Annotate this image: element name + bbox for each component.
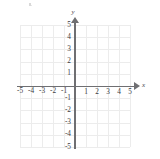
y-tick-label: 4 (59, 33, 71, 41)
y-tick-label: -1 (59, 94, 71, 102)
y-tick-label: 1 (59, 69, 71, 77)
scan-artifact-speck-2 (31, 5, 32, 6)
y-tick-label: 2 (59, 57, 71, 65)
coordinate-plane-figure: x y -5-4-3-2-11234554321-1-2-3-4-5 (0, 0, 160, 159)
y-axis-arrow-icon (71, 17, 79, 23)
x-tick-label: 5 (124, 88, 136, 96)
y-tick-label: 3 (59, 45, 71, 53)
y-tick-label: -4 (59, 130, 71, 138)
y-axis-line (74, 22, 75, 149)
y-axis-label: y (72, 8, 75, 16)
y-tick-label: -5 (59, 143, 71, 151)
y-tick-label: 5 (59, 21, 71, 29)
y-tick-label: -3 (59, 118, 71, 126)
y-tick-label: -2 (59, 106, 71, 114)
x-axis-label: x (142, 81, 145, 89)
